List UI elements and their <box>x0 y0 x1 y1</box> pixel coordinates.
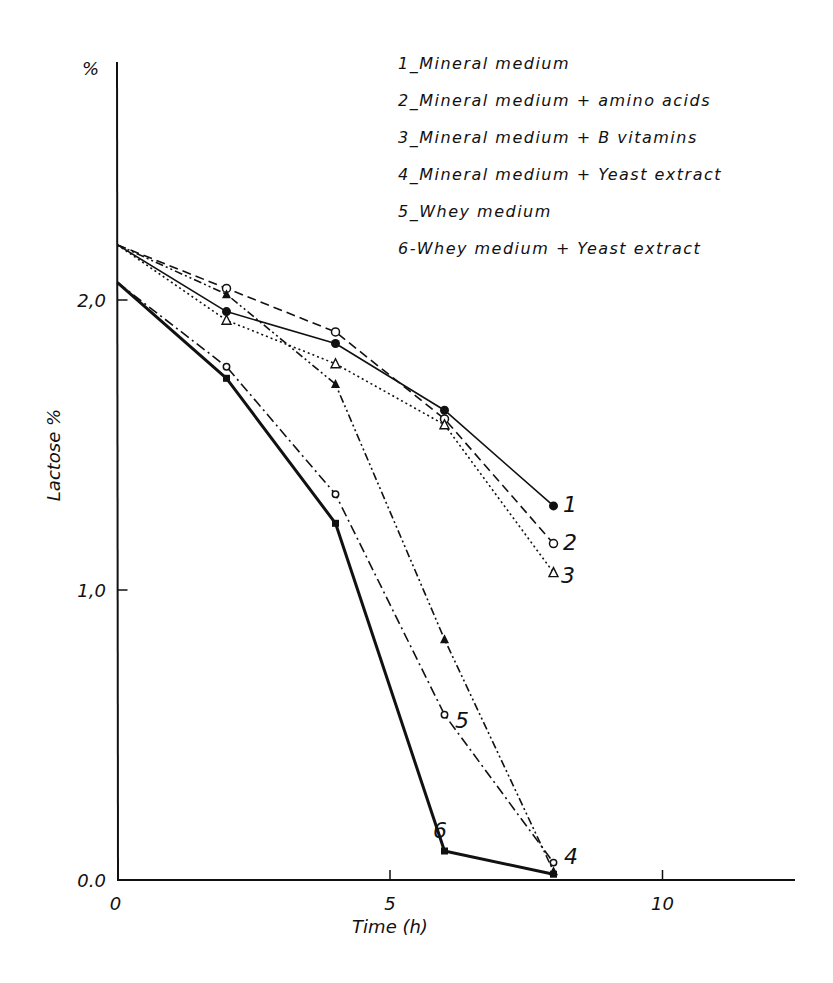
curve-label-3: 3 <box>561 563 575 588</box>
y-axis <box>117 62 118 880</box>
y-axis-title: Lactose % <box>43 409 64 501</box>
marker-series-5 <box>223 364 229 370</box>
marker-series-3 <box>222 315 231 324</box>
curve-label-5: 5 <box>455 708 469 733</box>
legend-item-4: 4_Mineral medium + Yeast extract <box>398 165 722 202</box>
x-axis-title: Time (h) <box>352 916 428 937</box>
y-tick-label: 2,0 <box>77 290 106 311</box>
marker-series-6 <box>332 520 339 527</box>
legend-item-2: 2_Mineral medium + amino acids <box>398 91 722 128</box>
marker-series-2 <box>332 328 340 336</box>
y-tick-label: 1,0 <box>77 580 106 601</box>
marker-series-5 <box>332 491 338 497</box>
x-tick-label: 10 <box>651 893 674 914</box>
y-tick-label: 0.0 <box>77 870 106 891</box>
x-tick-label: 0 <box>110 893 121 914</box>
marker-series-1 <box>331 339 340 348</box>
marker-series-6 <box>550 871 557 878</box>
curve-label-6: 6 <box>433 818 447 843</box>
curve-label-1: 1 <box>563 492 577 517</box>
marker-series-2 <box>550 540 558 548</box>
curve-label-2: 2 <box>563 530 577 555</box>
series-line-2 <box>118 245 554 544</box>
legend-item-6: 6-Whey medium + Yeast extract <box>398 239 722 276</box>
x-tick-label: 5 <box>384 893 395 914</box>
marker-series-4 <box>440 634 449 643</box>
marker-series-5 <box>441 712 447 718</box>
series-line-1 <box>118 245 554 506</box>
legend-item-3: 3_Mineral medium + B vitamins <box>398 128 722 165</box>
marker-series-1 <box>549 501 558 510</box>
marker-series-6 <box>223 375 230 382</box>
legend: 1_Mineral medium 2_Mineral medium + amin… <box>398 54 722 276</box>
curve-label-4: 4 <box>564 844 578 869</box>
marker-series-5 <box>550 859 556 865</box>
legend-item-1: 1_Mineral medium <box>398 54 722 91</box>
series-line-5 <box>118 283 554 863</box>
marker-series-4 <box>331 379 340 388</box>
marker-series-3 <box>549 568 558 577</box>
legend-item-5: 5_Whey medium <box>398 202 722 239</box>
marker-series-6 <box>441 848 448 855</box>
series-line-6 <box>118 283 554 875</box>
y-unit-label: % <box>82 58 99 79</box>
marker-series-1 <box>440 406 449 415</box>
